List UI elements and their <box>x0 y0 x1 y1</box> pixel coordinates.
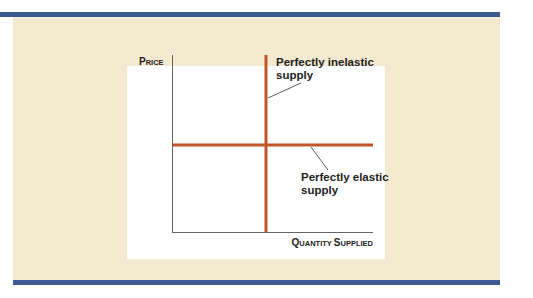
inelastic-leader-line <box>268 83 301 98</box>
elastic-leader-line <box>311 147 328 170</box>
x-axis-label: QUANTITY SUPPLIED <box>292 237 374 248</box>
supply-elasticity-chart: PRICE QUANTITY SUPPLIED Perfectly inelas… <box>0 0 533 298</box>
y-axis-label: PRICE <box>139 56 164 67</box>
elastic-annotation: Perfectly elastic supply <box>301 171 392 196</box>
inelastic-annotation: Perfectly inelastic supply <box>276 56 377 81</box>
